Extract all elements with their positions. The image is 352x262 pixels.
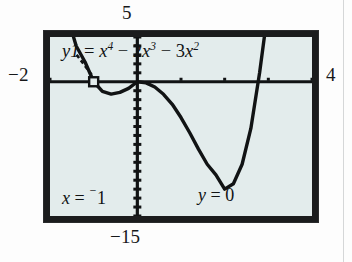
equation-term2-exponent: 3 <box>150 40 156 52</box>
equation-equals: = <box>84 41 94 61</box>
y-axis-ticks <box>133 37 141 216</box>
equation-term3-base: x <box>185 41 193 61</box>
range-label-xmax: 4 <box>326 64 336 86</box>
equation-term1-exponent: 4 <box>107 40 113 52</box>
trace-x-readout: x = ⁻1 <box>62 185 106 209</box>
equation-operator-2: − <box>161 41 171 61</box>
equation-label: y1 = x4 − 2x3 − 3x2 <box>62 41 199 62</box>
trace-x-equals: = <box>75 188 85 208</box>
equation-term3-exponent: 2 <box>193 40 199 52</box>
trace-x-value: 1 <box>97 188 106 208</box>
range-label-xmin: −2 <box>8 64 29 86</box>
equation-term2-coefficient: 2 <box>133 41 142 61</box>
range-label-ymax: 5 <box>122 2 132 24</box>
calculator-screen[interactable]: y1 = x4 − 2x3 − 3x2 x = ⁻1 y = 0 <box>44 31 318 222</box>
trace-y-variable: y <box>198 185 206 205</box>
equation-lhs: y1 <box>62 41 79 61</box>
page-margin-rule <box>343 0 344 262</box>
equation-term3-coefficient: 3 <box>176 41 185 61</box>
screen-plot-area: y1 = x4 − 2x3 − 3x2 x = ⁻1 y = 0 <box>50 37 312 216</box>
calculator-figure: 5 −2 4 −15 y1 = x4 − 2x3 − 3x2 x = ⁻1 y <box>0 0 352 262</box>
trace-y-equals: = <box>211 185 221 205</box>
trace-y-readout: y = 0 <box>198 185 234 206</box>
trace-cursor-marker[interactable] <box>89 77 98 86</box>
trace-x-variable: x <box>62 188 70 208</box>
range-label-ymin: −15 <box>110 226 140 248</box>
equation-operator-1: − <box>118 41 128 61</box>
trace-y-value: 0 <box>225 185 234 205</box>
trace-x-negative-sign: ⁻ <box>89 185 96 201</box>
